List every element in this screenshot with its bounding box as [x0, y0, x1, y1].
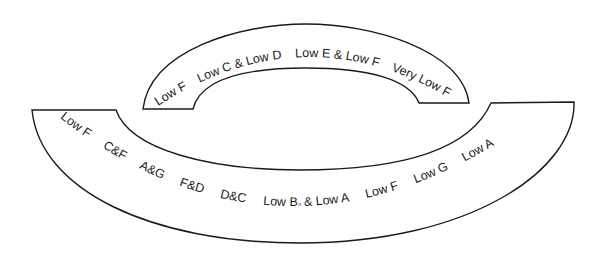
- upper-arc-band: [143, 24, 469, 109]
- fretboard-arc-diagram: Low F Low C & Low D Low E & Low F Very L…: [0, 0, 598, 257]
- flat-symbol-icon: ♭: [298, 200, 301, 207]
- lower-arc-band: [32, 102, 574, 243]
- lower-label-low-b-flat: Low B: [263, 194, 298, 209]
